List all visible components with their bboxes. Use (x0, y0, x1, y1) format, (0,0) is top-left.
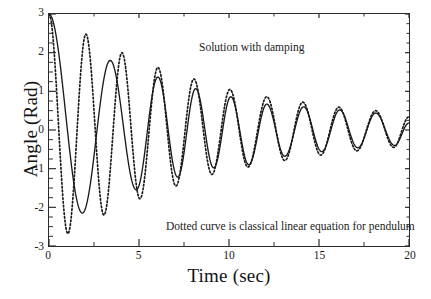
plot-area: Solution with damping Dotted curve is cl… (48, 13, 410, 247)
y-axis-title: Angle (Rad) (20, 14, 42, 244)
x-tick-label: 0 (45, 250, 51, 262)
x-axis-title: Time (sec) (48, 265, 410, 287)
annotation-dotted-curve-description: Dotted curve is classical linear equatio… (166, 221, 415, 233)
x-tick-label: 20 (404, 250, 416, 262)
x-tick-label: 10 (223, 250, 235, 262)
y-minor-ticks (49, 24, 409, 237)
figure: Solution with damping Dotted curve is cl… (0, 0, 431, 299)
x-tick-label: 5 (136, 250, 142, 262)
x-tick-label: 15 (314, 250, 326, 262)
annotation-solution-with-damping: Solution with damping (199, 42, 304, 54)
